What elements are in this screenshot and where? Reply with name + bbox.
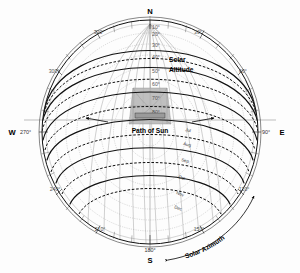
cardinal-west-degree: 270° [20, 129, 31, 135]
cardinal-south-label: S [147, 256, 152, 265]
sun-path-diagram: 10° 20° 30° 40° 50° 60° 70° 80° 30° 60° … [0, 0, 300, 273]
azimuth-label-120: 120° [239, 186, 250, 192]
cardinal-north-label: N [147, 7, 152, 16]
solar-altitude-label-line1: Solar [169, 56, 186, 63]
azimuth-label-60: 60° [239, 68, 247, 74]
azimuth-label-30: 30° [194, 29, 202, 35]
cardinal-south-degree: 180° [144, 247, 155, 253]
altitude-label-70: 70° [152, 95, 160, 101]
obstruction-mask [129, 88, 171, 124]
altitude-label-50: 50° [152, 68, 160, 74]
azimuth-label-300: 300° [49, 68, 60, 74]
sun-path-svg: 10° 20° 30° 40° 50° 60° 70° 80° 30° 60° … [0, 0, 300, 273]
cardinal-east-degree: 90° [262, 129, 270, 135]
altitude-label-40: 40° [152, 54, 160, 60]
cardinal-east-label: E [279, 128, 284, 137]
hour-strip [135, 113, 165, 118]
altitude-label-60: 60° [152, 81, 160, 87]
azimuth-label-150: 150° [194, 226, 205, 232]
cardinal-west-label: W [8, 128, 16, 137]
path-of-sun-label: Path of Sun [132, 127, 169, 134]
azimuth-label-210: 210° [95, 226, 106, 232]
azimuth-label-240: 240° [50, 186, 61, 192]
altitude-label-10: 10° [152, 24, 160, 30]
solar-altitude-label-line2: Altitude [169, 66, 194, 73]
altitude-label-20: 20° [152, 31, 160, 37]
altitude-label-30: 30° [152, 42, 160, 48]
azimuth-label-330: 330° [94, 29, 105, 35]
